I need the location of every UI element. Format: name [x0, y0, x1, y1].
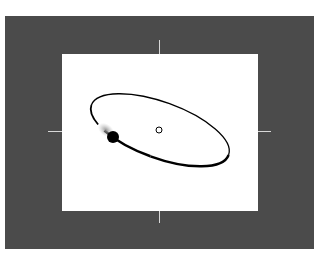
orbit-path-left: [86, 105, 104, 124]
orbit-path-upper: [91, 79, 238, 155]
focus-marker: [156, 127, 162, 133]
orbit-diagram: [0, 0, 326, 260]
orbit-path-lower: [150, 130, 228, 181]
orbiting-body: [107, 131, 119, 143]
